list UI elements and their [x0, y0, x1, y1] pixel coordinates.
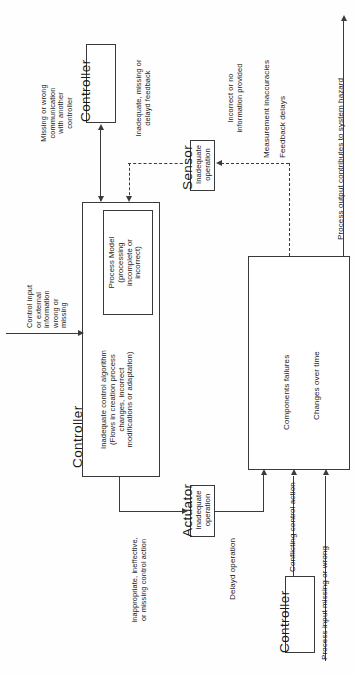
label-delayd-operation: Delayd operation [228, 538, 237, 600]
actuator-out-line-h [215, 511, 264, 512]
control-action-line-h [119, 511, 183, 512]
conflicting-action-arrow [291, 469, 297, 475]
label-process-input: Process input missing or wrong [320, 546, 329, 660]
label-conflicting-action: Conflicting control action [288, 482, 297, 572]
sensor-inner-text: Inadequate operation [195, 141, 213, 188]
actuator-out-arrow [261, 469, 267, 475]
label-incorrect-no-info: Incorrect or no information provided [227, 38, 244, 158]
label-inappropriate-action: Inappropriate, ineffective, or missing c… [131, 510, 148, 650]
controller-main-label: Controller [70, 405, 86, 468]
controller-top-label: Controller [78, 59, 94, 122]
control-action-line-v [119, 477, 120, 512]
comm-link-line [100, 127, 101, 201]
label-missing-communication: Missing or wrong communication with anot… [40, 33, 74, 193]
sensor-feedback-arrow [126, 196, 132, 202]
measurement-dash-v [289, 163, 290, 256]
control-input-arrow [78, 330, 84, 336]
controller-bottom-label: Controller [277, 590, 293, 653]
label-process-output-hazard: Process output contributes to system haz… [336, 78, 345, 240]
label-measurement-inaccuracies: Measurement inaccuracies [262, 60, 271, 158]
diagram-canvas: Controller Missing or wrong communicatio… [0, 0, 356, 675]
sensor-label: Sensor [180, 145, 196, 190]
process-input-arrow [323, 469, 329, 475]
controlled-process-box [248, 256, 350, 470]
control-input-line [6, 333, 80, 334]
label-feedback-delays: Feedback delays [278, 96, 287, 158]
actuator-out-line-v [263, 475, 264, 512]
control-action-arrow [182, 508, 188, 514]
label-control-input: Control input or external information wr… [26, 248, 69, 328]
actuator-inner-text: Inadequate operation [195, 486, 213, 534]
process-output-arrow [341, 15, 347, 21]
label-inadequate-feedback: Inadequate, missing or delayd feedback [135, 38, 152, 158]
sensor-feedback-dash-h [128, 163, 188, 164]
process-changes-text: Changes over time [312, 351, 321, 420]
comm-link-arrow-up [98, 124, 104, 130]
measurement-dash-h [221, 163, 289, 164]
process-failures-text: Components failures [282, 355, 291, 430]
process-model-text: Process Model (processing incomplete or … [108, 213, 143, 312]
control-algorithm-text: Inadequate control algorithm (Flows in c… [100, 327, 135, 472]
measurement-arrow [216, 160, 222, 166]
sensor-feedback-dash-v [129, 163, 130, 200]
